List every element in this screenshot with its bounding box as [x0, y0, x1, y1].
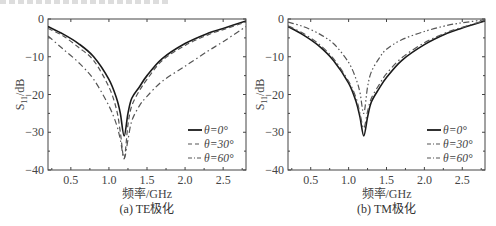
legend-entry: θ=60° — [204, 152, 234, 164]
y-tick-label: −10 — [25, 50, 44, 64]
y-tick-label: −40 — [25, 163, 44, 177]
x-tick-label: 0.5 — [303, 173, 318, 187]
y-tick-label: −40 — [265, 163, 284, 177]
y-axis-label: S11/dB — [13, 79, 29, 111]
y-tick-label: −30 — [265, 125, 284, 139]
x-tick-label: 1.5 — [379, 173, 394, 187]
panel-caption: (b) TM极化 — [357, 202, 416, 216]
legend-entry: θ=0° — [443, 124, 467, 136]
x-tick-label: 2.0 — [178, 173, 193, 187]
x-tick-label: 2.0 — [417, 173, 432, 187]
figure: 0.51.01.52.02.50−10−20−30−40S11/dB频率/GHz… — [0, 0, 496, 226]
x-tick-label: 0.5 — [63, 173, 78, 187]
x-tick-label: 2.5 — [455, 173, 470, 187]
series-line — [288, 20, 485, 114]
x-tick-label: 1.5 — [140, 173, 155, 187]
chart-panel-te: 0.51.01.52.02.50−10−20−30−40S11/dB频率/GHz… — [13, 12, 246, 216]
chart-panel-tm: 0.51.01.52.02.50−10−20−30−40S11/dB频率/GHz… — [253, 12, 485, 216]
legend-entry: θ=30° — [443, 138, 473, 150]
y-tick-label: 0 — [38, 12, 44, 26]
legend-entry: θ=0° — [204, 124, 228, 136]
y-axis-label: S11/dB — [253, 79, 269, 111]
x-tick-label: 1.0 — [101, 173, 116, 187]
legend-entry: θ=60° — [443, 152, 473, 164]
series-line — [48, 21, 246, 136]
series-line — [288, 21, 485, 129]
y-tick-label: −10 — [265, 50, 284, 64]
x-axis-label: 频率/GHz — [122, 186, 172, 201]
y-tick-label: 0 — [278, 12, 284, 26]
x-axis-label: 频率/GHz — [362, 186, 412, 201]
y-tick-label: −30 — [25, 125, 44, 139]
series-line — [288, 21, 485, 136]
x-tick-label: 2.5 — [216, 173, 231, 187]
panel-caption: (a) TE极化 — [120, 202, 175, 216]
legend-entry: θ=30° — [204, 138, 234, 150]
x-tick-label: 1.0 — [341, 173, 356, 187]
